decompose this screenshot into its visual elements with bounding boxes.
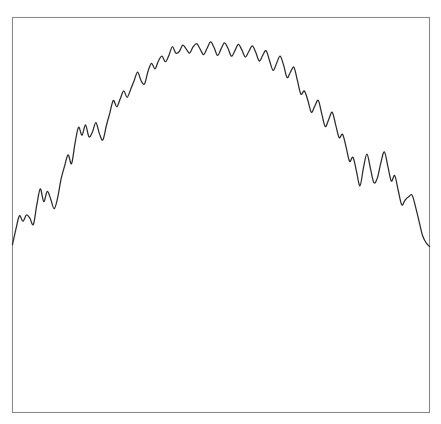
plot-frame-border	[13, 18, 430, 413]
line-chart-plot	[0, 0, 441, 424]
chart-container	[0, 0, 441, 424]
